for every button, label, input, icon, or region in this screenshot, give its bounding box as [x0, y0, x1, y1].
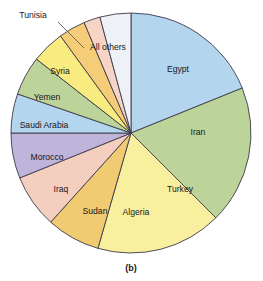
pie-label-iran: Iran: [191, 127, 206, 137]
pie-label-egypt: Egypt: [167, 64, 190, 74]
pie-label-morocco: Morocco: [31, 152, 64, 162]
pie-label-sudan: Sudan: [83, 206, 108, 216]
pie-label-iraq: Iraq: [54, 184, 69, 194]
pie-label-syria: Syria: [50, 66, 70, 76]
pie-chart-figure: EgyptIranTurkeyAlgeriaSudanIraqMoroccoSa…: [0, 0, 263, 281]
pie-label-algeria: Algeria: [123, 207, 150, 217]
pie-label-tunisia: Tunisia: [19, 10, 47, 20]
figure-caption: (b): [125, 263, 137, 273]
pie-label-saudi-arabia: Saudi Arabia: [20, 120, 69, 130]
pie-chart-svg: EgyptIranTurkeyAlgeriaSudanIraqMoroccoSa…: [0, 0, 263, 281]
pie-label-turkey: Turkey: [167, 184, 194, 194]
pie-label-all-others: All others: [90, 42, 126, 52]
pie-label-yemen: Yemen: [34, 92, 61, 102]
